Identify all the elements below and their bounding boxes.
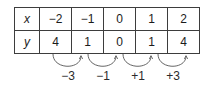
- cell-y-4-value: 4: [180, 35, 187, 49]
- cell-y-3: 1: [136, 31, 168, 54]
- cell-x-0-value: −2: [49, 12, 63, 26]
- cell-x-2-value: 0: [116, 12, 123, 26]
- curved-difference-arrow-1: [88, 54, 116, 66]
- difference-label-2: +1: [121, 70, 155, 82]
- cell-x-4-value: 2: [180, 12, 187, 26]
- table-row-y: y 4 1 0 1 4: [15, 31, 200, 54]
- cell-y-1-value: 1: [84, 35, 91, 49]
- row-header-x-label: x: [24, 12, 30, 26]
- cell-x-4: 2: [168, 8, 200, 31]
- cell-y-1: 1: [72, 31, 104, 54]
- cell-y-2: 0: [104, 31, 136, 54]
- cell-y-4: 4: [168, 31, 200, 54]
- difference-label-1: −1: [86, 70, 120, 82]
- difference-label-3: +3: [156, 70, 190, 82]
- cell-x-3: 1: [136, 8, 168, 31]
- row-header-y-label: y: [24, 35, 30, 49]
- cell-x-3-value: 1: [148, 12, 155, 26]
- xy-value-table: x −2 −1 0 1 2 y: [14, 7, 200, 54]
- cell-y-2-value: 0: [116, 35, 123, 49]
- cell-x-1: −1: [72, 8, 104, 31]
- row-header-y: y: [15, 31, 40, 54]
- row-header-x: x: [15, 8, 40, 31]
- cell-y-0: 4: [40, 31, 72, 54]
- cell-x-0: −2: [40, 8, 72, 31]
- figure-canvas: x −2 −1 0 1 2 y: [0, 0, 215, 91]
- curved-difference-arrow-3: [158, 54, 186, 66]
- curved-difference-arrow-2: [123, 54, 151, 66]
- cell-y-0-value: 4: [52, 35, 59, 49]
- difference-label-0: −3: [51, 70, 85, 82]
- cell-x-1-value: −1: [81, 12, 95, 26]
- table-row-x: x −2 −1 0 1 2: [15, 8, 200, 31]
- curved-difference-arrow-0: [53, 54, 81, 66]
- cell-x-2: 0: [104, 8, 136, 31]
- cell-y-3-value: 1: [148, 35, 155, 49]
